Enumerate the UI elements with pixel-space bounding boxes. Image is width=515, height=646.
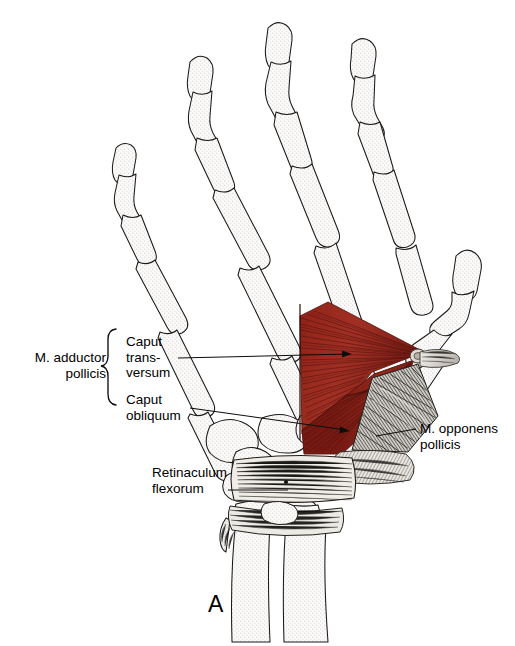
- panel-label-a: A: [208, 592, 223, 617]
- flexor-retinaculum: [231, 455, 356, 504]
- figure-canvas: M. adductor pollicis Caput trans- versum…: [0, 0, 515, 646]
- label-retinaculum-flexorum: Retinaculum flexorum: [152, 465, 227, 496]
- label-opponens-pollicis: M. opponens pollicis: [420, 421, 498, 452]
- label-caput-obliquum: Caput obliquum: [126, 392, 181, 423]
- hand-anatomy-illustration: [0, 0, 515, 646]
- label-adductor-pollicis: M. adductor pollicis: [8, 350, 106, 381]
- label-caput-transversum: Caput trans- versum: [126, 334, 170, 381]
